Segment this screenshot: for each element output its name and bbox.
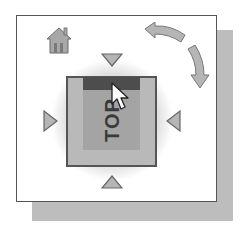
mouse-cursor xyxy=(111,82,133,116)
mouse-pointer-icon xyxy=(111,82,133,112)
rotate-arrow-left-icon xyxy=(143,22,188,47)
home-button[interactable] xyxy=(44,25,74,55)
rotate-arrow-down-icon xyxy=(186,45,214,90)
rotate-clockwise-button[interactable] xyxy=(186,45,214,90)
home-icon xyxy=(44,25,74,55)
rotate-counterclockwise-button[interactable] xyxy=(143,22,188,47)
